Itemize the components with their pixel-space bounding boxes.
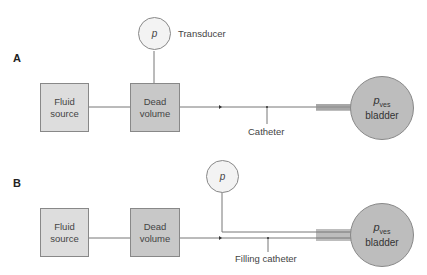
fluid-source-line2: source <box>50 108 79 120</box>
fluid-source-box-b: Fluidsource <box>40 208 89 257</box>
catheter-label-a: Catheter <box>248 126 284 137</box>
transducer-label: Transducer <box>178 28 226 39</box>
panel-label-b: B <box>13 177 21 189</box>
fluid-source-line1: Fluid <box>50 96 79 108</box>
bladder-pressure-a: pves <box>373 95 390 110</box>
dead-volume-box-a: Deadvolume <box>130 83 180 132</box>
transducer-circle-b: p <box>206 160 239 193</box>
transducer-circle-a: p <box>138 17 171 50</box>
bladder-a: pves bladder <box>350 76 414 140</box>
fluid-source-line2: source <box>50 233 79 245</box>
dead-volume-line1: Dead <box>140 221 171 233</box>
dead-volume-line1: Dead <box>140 96 171 108</box>
bladder-pressure-b: pves <box>373 222 390 237</box>
filling-catheter-label: Filling catheter <box>235 253 297 264</box>
dead-volume-box-b: Deadvolume <box>130 208 180 257</box>
bladder-b: pves bladder <box>350 203 414 267</box>
dead-volume-line2: volume <box>140 233 171 245</box>
bladder-label-b: bladder <box>365 237 398 248</box>
fluid-source-line1: Fluid <box>50 221 79 233</box>
bladder-label-a: bladder <box>365 110 398 121</box>
panel-label-a: A <box>13 52 21 64</box>
fluid-source-box-a: Fluidsource <box>40 83 89 132</box>
dead-volume-line2: volume <box>140 108 171 120</box>
